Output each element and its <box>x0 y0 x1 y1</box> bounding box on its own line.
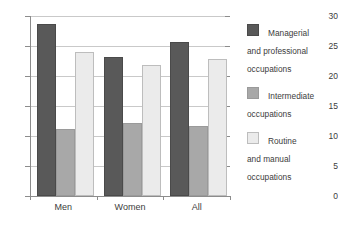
bar-women-series-2 <box>142 65 161 196</box>
bar-men-series-1 <box>56 129 75 196</box>
legend-item-2: Routine and manual occupations <box>247 130 338 184</box>
bar-men-series-2 <box>75 52 94 196</box>
bar-group-all <box>170 16 227 196</box>
chart-legend: Managerial and professional occupationsI… <box>247 22 338 193</box>
y-tick-label-0: 0 <box>316 192 338 201</box>
bar-group-women <box>104 16 161 196</box>
legend-item-1: Intermediate occupations <box>247 85 338 121</box>
bar-women-series-0 <box>104 57 123 196</box>
bar-all-series-0 <box>170 42 189 196</box>
legend-swatch-routine <box>247 132 259 144</box>
x-tick-label-women: Women <box>97 202 164 213</box>
x-tick-label-men: Men <box>30 202 97 213</box>
x-tick-mark-3 <box>230 196 231 200</box>
grouped-bar-chart: 051015202530 MenWomenAll Managerial and … <box>0 0 338 231</box>
legend-item-0: Managerial and professional occupations <box>247 22 338 76</box>
plot-area <box>30 16 230 196</box>
bar-men-series-0 <box>37 24 56 196</box>
x-tick-label-all: All <box>163 202 230 213</box>
bar-all-series-2 <box>208 59 227 196</box>
bars-layer <box>30 16 230 196</box>
bar-women-series-1 <box>123 123 142 196</box>
x-tick-mark-2 <box>163 196 164 200</box>
y-tick-label-30: 30 <box>316 12 338 21</box>
legend-swatch-intermediate <box>247 87 259 99</box>
bar-group-men <box>37 16 94 196</box>
legend-swatch-managerial <box>247 24 259 36</box>
bar-all-series-1 <box>189 126 208 196</box>
x-tick-mark-1 <box>97 196 98 200</box>
x-axis-line <box>30 196 231 197</box>
x-tick-mark-0 <box>30 196 31 200</box>
